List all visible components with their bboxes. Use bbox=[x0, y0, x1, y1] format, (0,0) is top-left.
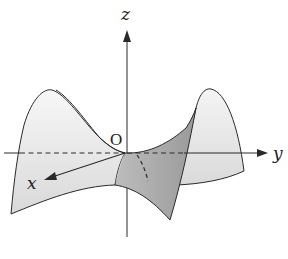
x-axis-label: x bbox=[27, 173, 37, 193]
z-axis-label: z bbox=[120, 4, 131, 24]
diagram-canvas: z y x O bbox=[0, 0, 288, 259]
y-axis-arrowhead bbox=[257, 149, 268, 157]
origin-label: O bbox=[110, 130, 122, 149]
saddle-surface-diagram: z y x O bbox=[0, 0, 288, 259]
left-front-sheet bbox=[11, 90, 125, 214]
y-axis-label: y bbox=[272, 143, 283, 163]
z-axis-arrowhead bbox=[123, 30, 131, 42]
